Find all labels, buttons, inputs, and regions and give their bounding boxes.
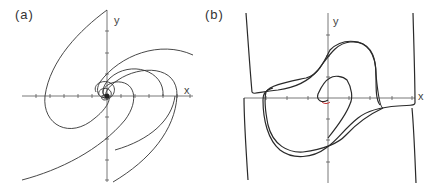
panel-a: (a) y x xyxy=(0,0,218,194)
panel-b-axes xyxy=(244,13,415,183)
panel-b-plot xyxy=(218,0,436,194)
panel-b-label: (b) xyxy=(205,7,224,22)
panel-a-x-axis-label: x xyxy=(184,84,190,96)
panel-b: (b) y x xyxy=(218,0,436,194)
panel-a-y-axis-label: y xyxy=(114,14,120,26)
panel-a-plot xyxy=(0,0,218,194)
panel-b-y-axis-label: y xyxy=(333,15,339,27)
panel-b-x-axis-label: x xyxy=(418,90,424,102)
panel-a-label: (a) xyxy=(15,7,34,22)
